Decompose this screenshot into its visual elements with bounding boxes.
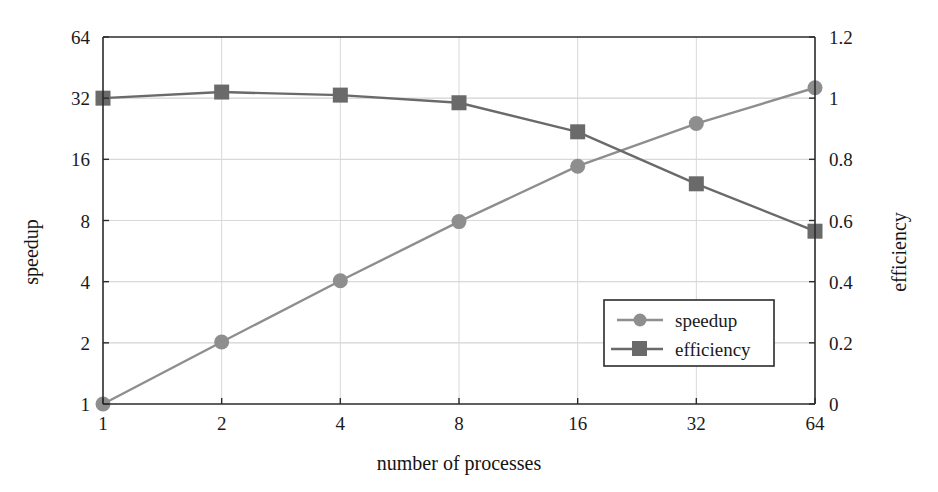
y-tick-label-right: 1	[829, 88, 839, 109]
data-point-efficiency	[570, 124, 585, 139]
x-tick-label: 2	[217, 413, 227, 434]
x-tick-label: 64	[806, 413, 826, 434]
data-point-speedup	[214, 334, 229, 349]
x-tick-label: 1	[98, 413, 108, 434]
y-tick-label-left: 1	[81, 394, 91, 415]
x-tick-label: 32	[687, 413, 706, 434]
y-tick-label-right: 0	[829, 394, 839, 415]
data-point-efficiency	[214, 85, 229, 100]
y-tick-label-right: 0.8	[829, 149, 853, 170]
y-tick-label-left: 32	[71, 88, 90, 109]
y-tick-label-left: 16	[71, 149, 90, 170]
y-tick-label-left: 64	[71, 27, 91, 48]
data-point-efficiency	[333, 88, 348, 103]
y-tick-label-left: 8	[81, 211, 91, 232]
x-axis-title: number of processes	[377, 452, 542, 475]
circle-marker-icon	[634, 314, 647, 327]
y-tick-label-left: 4	[81, 272, 91, 293]
y-axis-title-right: efficiency	[888, 212, 911, 292]
y-tick-label-right: 0.6	[829, 211, 853, 232]
x-tick-label: 8	[454, 413, 464, 434]
y-tick-label-right: 0.2	[829, 333, 853, 354]
data-point-speedup	[452, 214, 467, 229]
data-point-speedup	[570, 159, 585, 174]
data-point-speedup	[333, 273, 348, 288]
y-tick-label-left: 2	[81, 333, 91, 354]
x-tick-label: 4	[336, 413, 346, 434]
y-axis-title-left: speedup	[20, 219, 43, 285]
legend-label-speedup: speedup	[675, 310, 737, 331]
data-point-efficiency	[689, 176, 704, 191]
legend-label-efficiency: efficiency	[675, 339, 751, 360]
legend: speedup efficiency	[604, 300, 774, 366]
data-point-speedup	[689, 116, 704, 131]
y-tick-label-right: 1.2	[829, 27, 853, 48]
speedup-efficiency-chart: 1248163264 1248163264 00.20.40.60.811.2 …	[0, 0, 938, 492]
square-marker-icon	[632, 341, 647, 356]
data-point-efficiency	[452, 95, 467, 110]
x-tick-label: 16	[568, 413, 587, 434]
y-tick-label-right: 0.4	[829, 272, 853, 293]
chart-figure: 1248163264 1248163264 00.20.40.60.811.2 …	[0, 0, 938, 492]
